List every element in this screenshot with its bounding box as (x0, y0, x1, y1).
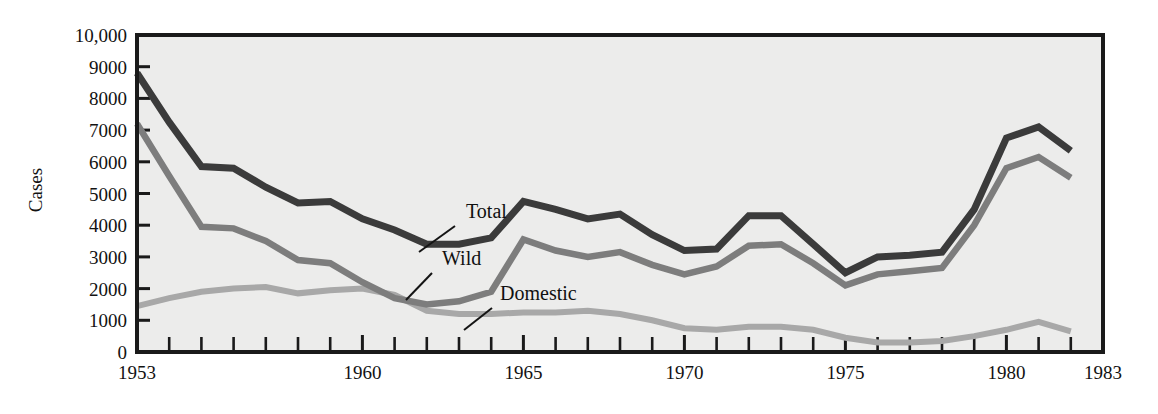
y-tick-label: 8000 (89, 88, 127, 109)
series-label-domestic: Domestic (500, 282, 577, 304)
y-tick-label: 4000 (89, 215, 127, 236)
y-tick-label: 7000 (89, 120, 127, 141)
chart-figure: 010002000300040005000600070008000900010,… (0, 0, 1158, 414)
y-tick-label: 3000 (89, 247, 127, 268)
y-tick-label: 1000 (89, 310, 127, 331)
x-tick-label: 1960 (343, 362, 381, 383)
y-tick-label: 9000 (89, 57, 127, 78)
y-axis-title: Cases (25, 168, 46, 212)
series-label-total: Total (466, 200, 507, 222)
x-tick-label: 1980 (987, 362, 1025, 383)
y-tick-label: 0 (118, 342, 128, 363)
y-tick-label: 6000 (89, 152, 127, 173)
x-tick-label: 1970 (665, 362, 703, 383)
y-tick-label: 2000 (89, 279, 127, 300)
rabies-cases-line-chart: 010002000300040005000600070008000900010,… (0, 0, 1158, 414)
y-tick-label: 10,000 (75, 25, 127, 46)
x-tick-label: 1965 (504, 362, 542, 383)
x-tick-label: 1953 (118, 362, 156, 383)
y-tick-label: 5000 (89, 184, 127, 205)
series-label-wild: Wild (442, 247, 481, 269)
x-tick-label: 1975 (826, 362, 864, 383)
x-tick-label: 1983 (1084, 362, 1122, 383)
